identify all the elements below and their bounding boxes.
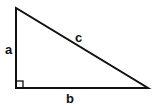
label-side-b: b xyxy=(66,91,74,106)
label-hypotenuse-c: c xyxy=(75,30,82,45)
triangle xyxy=(16,8,148,88)
label-side-a: a xyxy=(5,42,13,57)
right-angle-marker xyxy=(16,81,23,88)
right-triangle-diagram: a c b xyxy=(0,0,155,106)
